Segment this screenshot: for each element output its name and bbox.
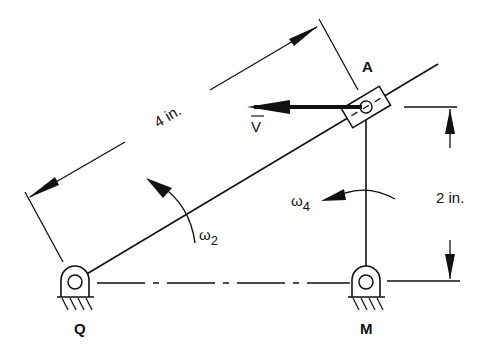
dim-4in-arrow-right-icon [289,26,318,46]
velocity-arrowhead-icon [247,100,290,114]
velocity-label: V [251,118,261,135]
dim-4in-arrow-left-icon [28,177,59,198]
point-a-label: A [362,58,373,75]
dim-4in-ext-q [25,192,63,262]
omega2-label: ω2 [199,226,218,248]
omega2-arrowhead-icon [146,178,172,198]
omega4-arrowhead-icon [321,189,346,201]
dim-2in-label: 2 in. [436,189,464,206]
dim-2in-arrow-top-icon [445,109,455,134]
omega4-arc [345,190,395,199]
dim-4in-ext-a [319,19,358,90]
pivot-m [348,266,385,310]
linkage-diagram: V 4 in. 2 in. ω2 ω4 Q M [0,0,482,347]
dim-4in-label: 4 in. [151,101,184,130]
point-q-label: Q [74,320,86,337]
dim-2in-arrow-bottom-icon [445,254,455,279]
omega4-label: ω4 [291,192,310,214]
point-m-label: M [360,320,373,337]
